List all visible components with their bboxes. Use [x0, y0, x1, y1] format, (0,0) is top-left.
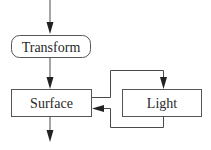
- diagram-canvas: Transform Surface Light: [0, 0, 211, 150]
- node-surface[interactable]: Surface: [12, 90, 92, 117]
- arrowhead-icon: [47, 22, 54, 34]
- arrowhead-icon: [47, 77, 54, 89]
- node-light-label: Light: [147, 96, 177, 111]
- arrowhead-icon: [47, 130, 54, 142]
- node-transform-label: Transform: [22, 40, 81, 55]
- arrowhead-icon: [160, 77, 167, 89]
- edge-input-to-transform: [47, 0, 54, 34]
- arrowhead-icon: [92, 105, 104, 112]
- edge-transform-to-surface: [47, 58, 54, 89]
- node-transform[interactable]: Transform: [12, 36, 91, 58]
- node-light[interactable]: Light: [123, 90, 202, 117]
- node-surface-label: Surface: [30, 96, 73, 111]
- edge-surface-to-output: [47, 117, 54, 142]
